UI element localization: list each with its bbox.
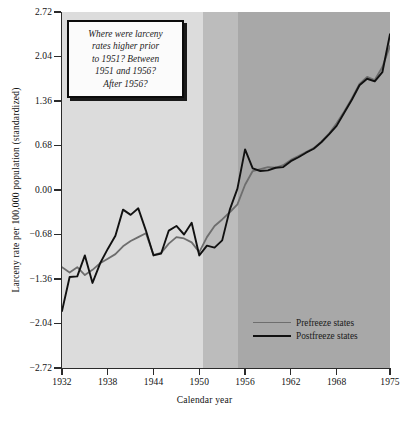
legend-label-postfreeze: Postfreeze states (296, 331, 358, 341)
x-tick-mark (153, 368, 154, 375)
y-tick-mark (54, 323, 61, 324)
y-tick-mark (54, 145, 61, 146)
x-tick-mark (244, 368, 245, 375)
legend: Prefreeze states Postfreeze states (253, 316, 385, 342)
y-tick-mark (54, 278, 61, 279)
x-tick-mark (336, 368, 337, 375)
question-callout: Where were larceny rates higher prior to… (67, 20, 184, 98)
callout-line-5: After 1956? (73, 78, 178, 90)
x-tick-mark (290, 368, 291, 375)
y-tick-label: 2.72 (4, 7, 52, 17)
y-tick-mark (54, 11, 61, 12)
legend-label-prefreeze: Prefreeze states (296, 318, 354, 328)
y-tick-mark (54, 234, 61, 235)
x-tick-label: 1950 (179, 377, 219, 387)
callout-line-1: Where were larceny (73, 28, 178, 40)
x-tick-mark (107, 368, 108, 375)
y-axis-line (61, 12, 62, 369)
callout-line-2: rates higher prior (73, 40, 178, 52)
x-tick-label: 1956 (225, 377, 265, 387)
x-tick-mark (199, 368, 200, 375)
y-tick-mark (54, 100, 61, 101)
x-tick-mark (389, 368, 390, 375)
callout-line-3: to 1951? Between (73, 53, 178, 65)
x-axis-line (61, 368, 391, 369)
x-axis-title: Calendar year (0, 395, 409, 405)
callout-line-4: 1951 and 1956? (73, 65, 178, 77)
y-tick-mark (54, 189, 61, 190)
larceny-rate-chart: 2.722.041.360.680.00−0.68−1.36−2.04−2.72… (0, 0, 409, 423)
legend-item-postfreeze: Postfreeze states (253, 329, 385, 342)
y-tick-mark (54, 56, 61, 57)
y-axis-ticks: 2.722.041.360.680.00−0.68−1.36−2.04−2.72 (0, 0, 52, 423)
y-tick-mark (54, 367, 61, 368)
x-tick-label: 1932 (42, 377, 82, 387)
legend-swatch-prefreeze (253, 322, 291, 323)
x-tick-label: 1938 (88, 377, 128, 387)
x-tick-label: 1962 (271, 377, 311, 387)
x-tick-label: 1944 (134, 377, 174, 387)
legend-item-prefreeze: Prefreeze states (253, 316, 385, 329)
y-axis-title: Larceny rate per 100,000 population (sta… (11, 40, 21, 340)
legend-swatch-postfreeze (253, 335, 291, 337)
y-tick-label: −2.72 (4, 363, 52, 373)
x-tick-label: 1968 (317, 377, 357, 387)
x-tick-label: 1975 (370, 377, 409, 387)
x-tick-mark (61, 368, 62, 375)
